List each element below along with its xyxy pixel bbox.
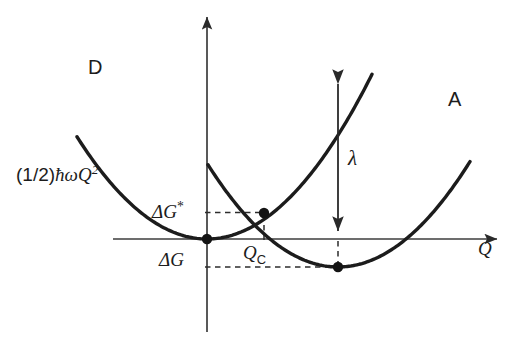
formula-omega: ω [65,164,78,185]
formula-exponent: 2 [92,162,99,177]
marcus-parabola-figure: D A (1/2)ħωQ2 ΔG* ΔG QC λ Q [0,0,523,355]
activation-energy-label: ΔG* [152,200,184,221]
formula-hbar: ħ [55,164,65,185]
crossing-coordinate-text: Q [243,242,257,263]
activation-energy-text: ΔG [152,201,177,222]
acceptor-curve-label: A [448,89,461,109]
free-energy-label: ΔG [159,250,184,269]
formula-q: Q [78,164,92,185]
crossing-coordinate-label: QC [243,243,266,267]
activation-energy-star: * [177,199,184,214]
donor-minimum-dot [202,234,212,244]
crossing-point-dot [259,208,269,218]
reorganization-energy-label: λ [348,148,357,169]
donor-curve-label: D [88,57,102,77]
formula-prefix: (1/2) [16,164,55,185]
crossing-coordinate-subscript: C [257,252,266,267]
axes-group [113,17,497,332]
acceptor-minimum-dot [333,262,343,272]
x-axis-label: Q [478,239,492,258]
donor-curve-D [77,74,372,239]
potential-formula-label: (1/2)ħωQ2 [16,163,98,184]
